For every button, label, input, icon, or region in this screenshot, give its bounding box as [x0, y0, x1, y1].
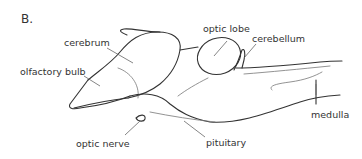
- label-cerebellum: cerebellum: [252, 34, 305, 44]
- label-pituitary: pituitary: [206, 138, 246, 148]
- medulla-inner-fold: [271, 72, 322, 90]
- optic-lobe-outline: [192, 32, 246, 81]
- label-optic-lobe: optic lobe: [203, 24, 250, 34]
- leader-optic-lobe: [214, 41, 227, 56]
- leader-optic-nerve: [125, 121, 140, 135]
- label-olfactory-bulb: olfactory bulb: [20, 67, 86, 77]
- olfactory-bulb-inner: [74, 98, 128, 108]
- leader-olfactory-bulb: [84, 76, 100, 86]
- cerebrum-top-loop: [120, 29, 160, 35]
- brain-outline-drawing: [0, 0, 362, 159]
- brain-diagram: B. cerebrum olfactory bulb optic lobe ce…: [0, 0, 362, 159]
- optic-nerve-outline: [136, 115, 145, 121]
- leader-cerebellum: [244, 44, 256, 58]
- hypothalamus-line: [178, 78, 208, 96]
- cerebrum-division: [118, 68, 138, 98]
- label-cerebrum: cerebrum: [64, 38, 110, 48]
- olfactory-bulb-outline: [69, 80, 130, 109]
- optic-lobe-connector: [180, 47, 198, 50]
- label-medulla: medulla: [311, 110, 349, 120]
- ventral-contour: [130, 94, 340, 122]
- medulla-upper-line: [236, 61, 342, 68]
- label-optic-nerve: optic nerve: [76, 139, 130, 149]
- leader-pituitary: [184, 121, 205, 137]
- panel-label: B.: [21, 12, 33, 26]
